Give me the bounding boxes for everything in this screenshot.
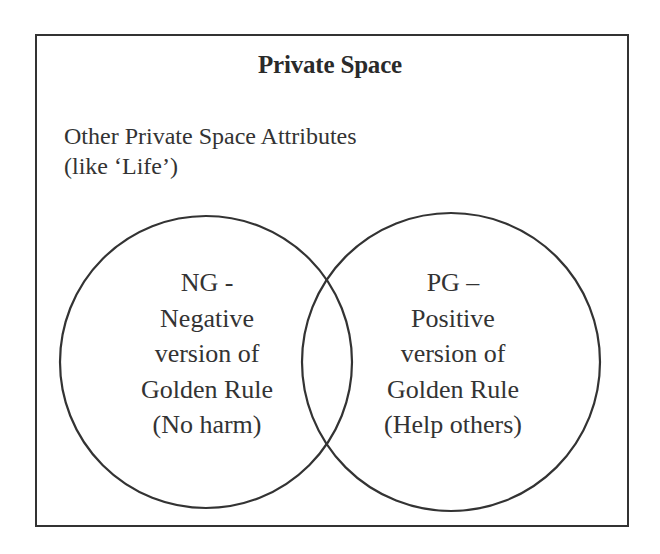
ng-label-line: version of: [107, 336, 307, 372]
pg-circle-label: PG – Positive version of Golden Rule (He…: [353, 265, 553, 443]
ng-label-line: (No harm): [107, 407, 307, 443]
pg-label-line: Golden Rule: [353, 372, 553, 408]
pg-label-line: PG –: [353, 265, 553, 301]
pg-label-line: version of: [353, 336, 553, 372]
ng-label-line: NG -: [107, 265, 307, 301]
venn-diagram: [0, 0, 660, 554]
pg-label-line: Positive: [353, 301, 553, 337]
pg-label-line: (Help others): [353, 407, 553, 443]
ng-label-line: Golden Rule: [107, 372, 307, 408]
ng-circle-label: NG - Negative version of Golden Rule (No…: [107, 265, 307, 443]
ng-label-line: Negative: [107, 301, 307, 337]
